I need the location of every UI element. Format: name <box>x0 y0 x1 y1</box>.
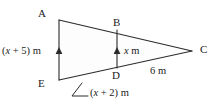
measure-label-left-side: (x + 5) m <box>2 46 41 57</box>
vertex-label-D: D <box>112 70 120 81</box>
geometry-figure: A B C D E (x + 5) m x m (x + 2) m 6 m <box>0 0 219 106</box>
vertex-label-C: C <box>200 44 207 55</box>
measure-label-bottom-side: (x + 2) m <box>90 88 129 99</box>
measure-label-middle-segment: x m <box>124 46 139 57</box>
vertex-label-A: A <box>38 8 46 19</box>
vertex-label-E: E <box>38 78 45 89</box>
leader-line-bottom-label <box>72 83 88 96</box>
vertex-label-B: B <box>113 17 120 28</box>
measure-label-slant-side: 6 m <box>150 66 166 77</box>
